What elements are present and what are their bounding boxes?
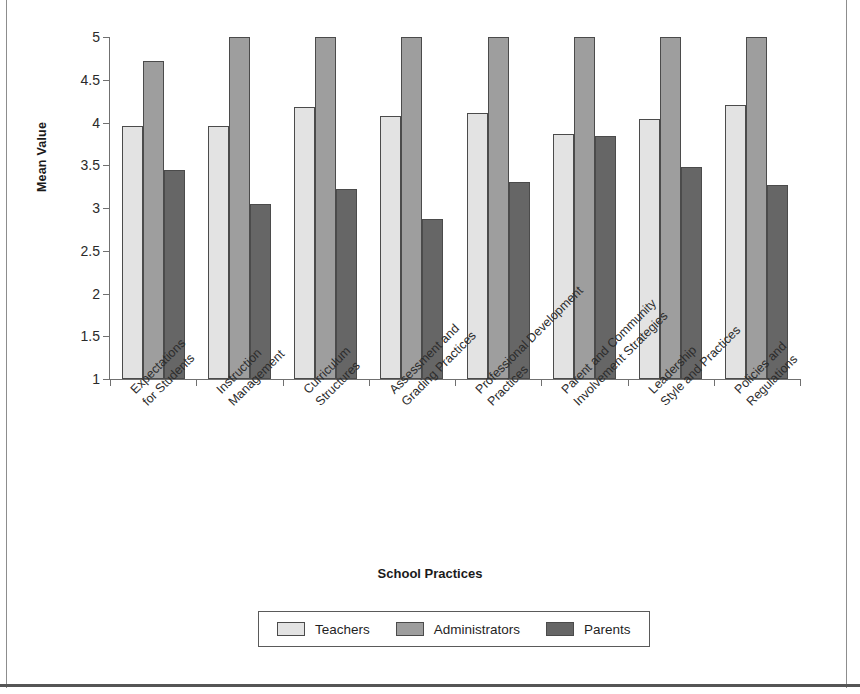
page-rule-bottom (0, 684, 860, 687)
legend-label: Parents (584, 622, 631, 637)
y-axis-tick-mark (103, 294, 110, 295)
bar-administrators-3 (315, 37, 336, 379)
bar-teachers-1 (122, 126, 143, 379)
bar-teachers-4 (380, 116, 401, 379)
y-axis-tick-label: 2.5 (46, 244, 100, 258)
x-axis-tick-mark (110, 379, 111, 386)
legend-swatch-administrators (396, 622, 424, 636)
legend-item-teachers: Teachers (277, 622, 370, 637)
y-axis-tick-label: 2 (46, 287, 100, 301)
y-axis-tick-mark (103, 80, 110, 81)
y-axis-tick-mark (103, 336, 110, 337)
x-axis-tick-mark (455, 379, 456, 386)
x-axis-tick-mark (196, 379, 197, 386)
page-rule-left (6, 0, 7, 688)
x-axis-tick-mark (628, 379, 629, 386)
y-axis-tick-mark (103, 123, 110, 124)
x-axis-title: School Practices (0, 566, 860, 581)
legend-swatch-teachers (277, 622, 305, 636)
bar-administrators-8 (746, 37, 767, 379)
y-axis-tick-mark (103, 379, 110, 380)
page-rule-right (846, 0, 847, 688)
x-axis-tick-mark (800, 379, 801, 386)
y-axis-tick-mark (103, 208, 110, 209)
chart-legend: TeachersAdministratorsParents (258, 611, 650, 647)
y-axis-tick-label: 3.5 (46, 158, 100, 172)
y-axis-tick-mark (103, 165, 110, 166)
y-axis-tick-label: 1.5 (46, 329, 100, 343)
chart-figure: Mean Value 11.522.533.544.55 Expectation… (0, 0, 860, 694)
legend-item-administrators: Administrators (396, 622, 520, 637)
legend-label: Teachers (315, 622, 370, 637)
y-axis-tick-label: 4 (46, 116, 100, 130)
y-axis-tick-label: 3 (46, 201, 100, 215)
x-axis-tick-mark (714, 379, 715, 386)
bar-administrators-1 (143, 61, 164, 379)
bar-administrators-5 (488, 37, 509, 379)
legend-item-parents: Parents (546, 622, 631, 637)
x-axis-tick-mark (541, 379, 542, 386)
y-axis-tick-label: 4.5 (46, 73, 100, 87)
bar-administrators-2 (229, 37, 250, 379)
y-axis-tick-mark (103, 37, 110, 38)
x-axis-tick-mark (369, 379, 370, 386)
y-axis-tick-label: 5 (46, 30, 100, 44)
legend-swatch-parents (546, 622, 574, 636)
bar-administrators-4 (401, 37, 422, 379)
bar-teachers-3 (294, 107, 315, 379)
y-axis-tick-label: 1 (46, 372, 100, 386)
x-axis-tick-mark (283, 379, 284, 386)
bar-teachers-2 (208, 126, 229, 379)
y-axis-tick-mark (103, 251, 110, 252)
legend-label: Administrators (434, 622, 520, 637)
